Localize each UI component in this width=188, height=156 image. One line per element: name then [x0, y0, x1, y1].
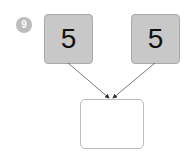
arrow-left-to-whole [68, 63, 109, 98]
arrow-right-to-whole [113, 63, 155, 98]
whole-answer-box[interactable] [80, 99, 144, 149]
